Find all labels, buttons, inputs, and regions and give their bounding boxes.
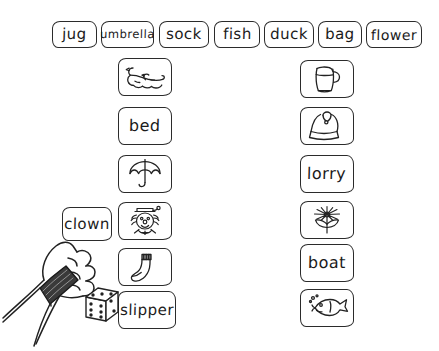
word-card-label: bed (129, 118, 161, 134)
word-card-lorry[interactable]: lorry (300, 155, 354, 193)
word-card-label: jug (62, 27, 87, 42)
held-card-label: clown (64, 217, 110, 232)
flower-icon (310, 205, 344, 235)
word-card-label: duck (270, 27, 308, 42)
word-card-duck[interactable]: duck (264, 21, 314, 48)
picture-card-fish[interactable] (300, 289, 354, 327)
word-card-umbrella[interactable]: umbrella (101, 21, 154, 48)
word-card-jug[interactable]: jug (52, 21, 97, 48)
picture-card-jug[interactable] (300, 60, 354, 98)
word-card-label: flower (371, 28, 418, 42)
duck-icon (122, 62, 168, 92)
word-card-sock[interactable]: sock (159, 21, 209, 48)
held-word-card-clown[interactable]: clown (62, 207, 112, 241)
word-card-flower[interactable]: flower (366, 21, 422, 48)
word-card-bed[interactable]: bed (118, 107, 172, 145)
word-card-fish[interactable]: fish (214, 21, 260, 48)
picture-card-flower[interactable] (300, 201, 354, 239)
bag-icon (308, 111, 346, 141)
word-card-label: bag (325, 27, 355, 42)
word-card-label: lorry (307, 166, 346, 182)
picture-card-bag[interactable] (300, 107, 354, 145)
word-card-label: fish (222, 27, 251, 42)
picture-card-duck[interactable] (118, 58, 172, 96)
word-card-bag[interactable]: bag (318, 21, 362, 48)
word-card-label: umbrella (100, 29, 155, 41)
fish-icon (306, 294, 348, 322)
word-card-label: sock (166, 27, 202, 42)
worksheet-canvas: jug umbrella sock fish duck bag flower (0, 0, 439, 351)
picture-card-umbrella[interactable] (118, 155, 172, 193)
die-icon (80, 283, 122, 325)
jug-icon (309, 64, 345, 94)
umbrella-icon (127, 158, 163, 190)
hand-holding-card: clown (0, 196, 150, 351)
word-card-label: boat (308, 255, 346, 271)
word-card-boat[interactable]: boat (300, 244, 354, 282)
